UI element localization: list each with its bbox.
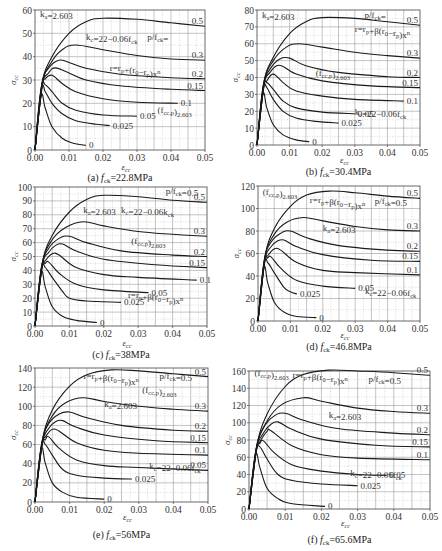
annotation: r=rp+(r0−rp)xn [110, 63, 161, 79]
panel-caption: (c) fck=38MPa [92, 349, 150, 362]
x-tick-label: 0.03 [129, 153, 146, 163]
series-line-0 [249, 453, 325, 509]
annotation: kc=22−0.06fck [149, 461, 201, 474]
x-tick-label: 0.03 [347, 324, 364, 334]
series-label: 0.5 [407, 15, 419, 25]
annotation: (fcc,p)2.603 [316, 68, 350, 81]
y-tick-label: 30 [245, 90, 255, 100]
series-label: 0.2 [417, 425, 428, 435]
chart-panel-b: 0.000.010.020.030.040.050102030405060708… [230, 6, 429, 180]
series-label: 0.3 [407, 221, 419, 231]
panel-caption: (e) fck=56MPa [93, 529, 151, 542]
series-label: 0.025 [361, 481, 382, 491]
x-tick-label: 0.05 [199, 329, 216, 339]
y-tick-label: 70 [23, 224, 33, 234]
y-tick-label: 90 [23, 196, 33, 206]
x-tick-label: 0.04 [165, 505, 182, 515]
x-tick-label: 0.01 [277, 512, 294, 522]
annotation: (fcc,p)2.603 [254, 368, 288, 381]
y-tick-label: 60 [23, 6, 33, 16]
series-label: 0.2 [407, 241, 418, 251]
series-label: 0.2 [192, 69, 203, 79]
y-tick-label: 0 [241, 505, 246, 515]
series-line-0.025 [35, 85, 110, 150]
y-tick-label: 20 [23, 478, 33, 488]
x-tick-label: 0.05 [197, 153, 214, 163]
x-axis-label: εcc [123, 338, 132, 349]
y-tick-label: 100 [18, 183, 33, 193]
y-tick-label: 60 [23, 440, 33, 450]
panel-caption: (f) fck=65.6MPa [308, 534, 372, 547]
y-tick-label: 100 [232, 418, 247, 428]
y-tick-label: 120 [241, 182, 256, 192]
annotation: p/fck=0.5 [368, 374, 401, 386]
x-tick-label: 0.05 [412, 324, 429, 334]
x-tick-label: 0.04 [379, 324, 396, 334]
series-label: 0.15 [402, 251, 418, 261]
y-tick-label: 30 [23, 280, 33, 290]
series-label: 0.025 [300, 289, 321, 299]
y-tick-label: 40 [237, 470, 247, 480]
annotation: r=rp+β(r0−rp)xn [292, 370, 348, 386]
annotation: ka=2.603 [323, 223, 356, 235]
x-tick-label: 0.04 [385, 512, 402, 522]
y-tick-label: 10 [23, 308, 33, 318]
y-tick-label: 50 [245, 56, 255, 66]
annotation: ka=2.603 [329, 410, 362, 422]
y-tick-label: 20 [23, 294, 33, 304]
y-tick-label: 60 [246, 249, 256, 259]
y-tick-label: 80 [246, 227, 256, 237]
x-tick-label: 0.01 [61, 329, 78, 339]
grid [249, 371, 430, 509]
series-label: 0.15 [190, 433, 206, 443]
y-tick-label: 80 [23, 421, 33, 431]
series-label: 0.025 [342, 118, 363, 128]
series-label: 0.1 [407, 96, 418, 106]
y-tick-label: 60 [237, 453, 247, 463]
series-label: 0.15 [189, 258, 205, 268]
y-axis-label: σcc [230, 72, 241, 82]
y-tick-label: 80 [237, 436, 247, 446]
x-tick-label: 0.01 [281, 148, 298, 158]
series-line-0.1 [35, 75, 178, 150]
chart-panel-c: 0.000.010.020.030.040.050102030405060708… [8, 183, 216, 363]
series-label: 0.5 [195, 367, 207, 377]
y-tick-label: 50 [23, 29, 33, 39]
x-tick-label: 0.02 [95, 329, 112, 339]
annotation: p/fck= [147, 32, 168, 44]
x-tick-label: 0.02 [95, 153, 112, 163]
series-label: 0.2 [195, 421, 206, 431]
x-tick-label: 0.03 [346, 148, 363, 158]
y-axis-label: σcc [8, 75, 19, 85]
y-tick-label: 0 [249, 141, 254, 151]
chart-panel-f: 0.000.010.020.030.040.050204060801001201… [222, 365, 439, 547]
series-label: 0.025 [113, 121, 134, 131]
annotation: ka=2.603 [83, 205, 116, 217]
x-tick-label: 0.04 [164, 329, 181, 339]
panel-caption: (d) fck=46.8MPa [306, 341, 372, 354]
y-tick-label: 40 [23, 459, 33, 469]
series-label: 0.1 [195, 445, 206, 455]
y-tick-label: 0 [27, 146, 32, 156]
x-tick-label: 0.01 [61, 505, 78, 515]
grid [35, 368, 208, 502]
y-tick-label: 100 [18, 402, 33, 412]
annotation: p/fck= [365, 10, 386, 22]
x-tick-label: 0.04 [379, 148, 396, 158]
y-tick-label: 10 [245, 124, 255, 134]
y-tick-label: 0 [250, 317, 255, 327]
chart-panel-a: 0.000.010.020.030.040.050102030405060εcc… [8, 6, 214, 186]
y-tick-label: 20 [246, 294, 256, 304]
annotation: ka=2.603 [104, 399, 137, 411]
y-tick-label: 20 [23, 99, 33, 109]
x-tick-label: 0.05 [422, 512, 439, 522]
series-label: 0.1 [200, 275, 211, 285]
y-axis-label: σcc [231, 248, 242, 258]
x-tick-label: 0.02 [96, 505, 113, 515]
series-label: 0.5 [417, 365, 429, 375]
y-tick-label: 120 [18, 383, 33, 393]
annotation: kc=22−0.06kck [121, 205, 175, 218]
y-tick-label: 10 [23, 122, 33, 132]
x-tick-label: 0.03 [130, 505, 147, 515]
y-tick-label: 120 [232, 401, 247, 411]
